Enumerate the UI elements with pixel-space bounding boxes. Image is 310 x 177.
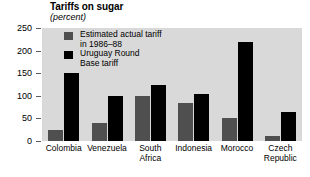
bar [194, 94, 209, 141]
legend-label-line: Base tariff [80, 59, 140, 69]
bar [108, 96, 123, 141]
bar [64, 73, 79, 141]
bar [135, 96, 150, 141]
chart-title: Tariffs on sugar [50, 1, 123, 12]
x-axis-category-label: CzechRepublic [255, 144, 306, 163]
x-axis-category-label-line: Republic [255, 154, 306, 164]
y-axis-tick-mark [36, 73, 41, 74]
legend-label: Estimated actual tariffin 1986–88 [80, 30, 162, 49]
legend-label: Uruguay RoundBase tariff [80, 49, 140, 68]
bar [238, 42, 253, 141]
y-axis-tick-label: 100 [6, 92, 32, 101]
y-axis-tick-label: 50 [6, 114, 32, 123]
y-axis-tick-label: 150 [6, 69, 32, 78]
y-axis-tick-label: 250 [6, 24, 32, 33]
y-axis-tick-mark [36, 118, 41, 119]
y-axis-tick-mark [36, 28, 41, 29]
bar [151, 85, 166, 142]
y-axis-tick-mark [36, 96, 41, 97]
bar [48, 130, 63, 141]
chart-container: Tariffs on sugar (percent) 0501001502002… [0, 0, 310, 177]
bar [222, 118, 237, 141]
legend-swatch [64, 32, 73, 40]
y-axis-tick-mark [36, 51, 41, 52]
chart-subtitle: (percent) [50, 12, 86, 22]
bar [178, 103, 193, 141]
bar [92, 123, 107, 141]
bottom-divider [0, 176, 310, 177]
y-axis-tick-label: 200 [6, 47, 32, 56]
x-axis-category-label-line: Africa [125, 154, 176, 164]
y-axis-tick-mark [36, 141, 41, 142]
bar [281, 112, 296, 141]
legend-swatch [64, 51, 73, 59]
y-axis-tick-label: 0 [6, 137, 32, 146]
bar [265, 136, 280, 141]
